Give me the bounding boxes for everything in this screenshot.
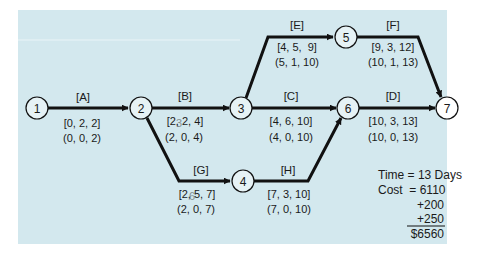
activity-early-times: [0, 2, 2] <box>64 117 101 129</box>
summary-time: Time = 13 Days <box>378 168 462 182</box>
node-5: 5 <box>335 26 357 48</box>
activity-struck-duration: 3 <box>176 117 182 129</box>
activity-name: [H] <box>281 164 296 176</box>
activity-name: [B] <box>178 90 192 102</box>
summary-add-1: +200 <box>417 198 444 212</box>
node-label: 2 <box>138 102 145 116</box>
activity-name: [C] <box>284 90 299 102</box>
node-label: 4 <box>240 175 247 189</box>
summary-cost: Cost = 6110 <box>378 183 446 197</box>
activity-late-times: (10, 0, 13) <box>368 131 418 143</box>
activity-name: [F] <box>386 19 399 31</box>
network-diagram: 1 2 3 4 5 6 7 [A] [0, 2, 2] (0, 0, 2) [B… <box>0 0 482 262</box>
activity-name: [G] <box>193 164 208 176</box>
activity-name: [A] <box>76 91 90 103</box>
activity-name: [E] <box>290 19 304 31</box>
node-4: 4 <box>232 170 254 192</box>
summary-total: $6560 <box>411 227 445 241</box>
node-label: 7 <box>444 102 451 116</box>
activity-early-times: [4, 5, 9] <box>277 41 317 53</box>
activity-late-times: (5, 1, 10) <box>275 56 319 68</box>
activity-early-times: [4, 6, 10] <box>270 115 313 127</box>
activity-late-times: (2, 0, 7) <box>177 203 215 215</box>
node-label: 5 <box>343 31 350 45</box>
activity-early-times: [7, 3, 10] <box>268 188 311 200</box>
activity-early-times: [9, 3, 12] <box>372 41 415 53</box>
node-1: 1 <box>26 97 48 119</box>
node-6: 6 <box>337 97 359 119</box>
activity-late-times: (0, 0, 2) <box>63 132 101 144</box>
node-7: 7 <box>436 97 458 119</box>
activity-early-times: [10, 3, 13] <box>369 115 418 127</box>
node-label: 6 <box>345 102 352 116</box>
activity-late-times: (2, 0, 4) <box>165 131 203 143</box>
node-label: 3 <box>238 102 245 116</box>
activity-early-times: [2, 5, 7] <box>179 188 216 200</box>
node-3: 3 <box>230 97 252 119</box>
activity-late-times: (10, 1, 13) <box>368 56 418 68</box>
activity-late-times: (4, 0, 10) <box>269 131 313 143</box>
activity-struck-duration: 6 <box>189 190 195 202</box>
node-2: 2 <box>130 97 152 119</box>
node-label: 1 <box>34 102 41 116</box>
activity-late-times: (7, 0, 10) <box>267 203 311 215</box>
activity-early-times: [2, 2, 4] <box>167 115 204 127</box>
activity-name: [D] <box>386 90 401 102</box>
summary-add-2: +250 <box>417 212 444 226</box>
